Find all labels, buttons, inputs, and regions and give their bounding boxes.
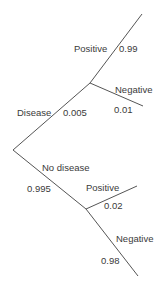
label-disease: Disease bbox=[17, 108, 51, 118]
label-no-disease: No disease bbox=[42, 163, 90, 173]
prob-disease: 0.005 bbox=[63, 108, 87, 118]
label-no-disease-negative: Negative bbox=[116, 234, 154, 244]
prob-disease-negative: 0.01 bbox=[114, 105, 133, 115]
prob-no-disease: 0.995 bbox=[27, 184, 51, 194]
label-disease-positive: Positive bbox=[74, 44, 107, 54]
label-disease-negative: Negative bbox=[115, 85, 153, 95]
prob-no-disease-positive: 0.02 bbox=[104, 201, 123, 211]
branch-no-disease bbox=[13, 150, 86, 209]
label-no-disease-positive: Positive bbox=[86, 183, 119, 193]
prob-no-disease-negative: 0.98 bbox=[101, 256, 120, 266]
prob-disease-positive: 0.99 bbox=[119, 44, 138, 54]
